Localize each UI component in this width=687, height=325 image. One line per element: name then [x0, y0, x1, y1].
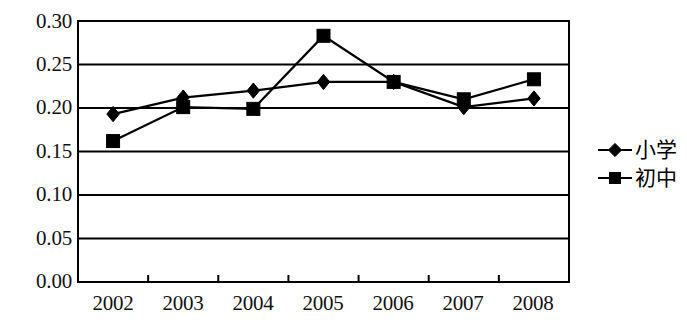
- data-point-diamond: [528, 91, 540, 106]
- line-chart: 0.30 0.25 0.20 0.15 0.10 0.05 0.00 2002 …: [0, 0, 687, 325]
- data-point-square: [387, 75, 400, 88]
- series-1: [107, 74, 540, 121]
- data-point-square: [317, 29, 330, 42]
- diamond-marker-icon: [598, 140, 632, 160]
- data-point-square: [457, 93, 470, 106]
- plot-area: [0, 0, 687, 325]
- legend-label: 小学: [632, 140, 677, 161]
- legend: 小学 初中: [598, 137, 687, 193]
- legend-label: 初中: [632, 168, 677, 189]
- x-axis-ticks: [148, 275, 499, 282]
- series-layer: [107, 29, 541, 147]
- data-point-square: [247, 102, 260, 115]
- data-point-square: [527, 73, 540, 86]
- legend-item-chuzhong[interactable]: 初中: [598, 165, 687, 191]
- legend-item-xiaoxue[interactable]: 小学: [598, 137, 687, 163]
- data-point-diamond: [247, 83, 259, 98]
- data-point-square: [107, 135, 120, 148]
- square-marker-icon: [598, 168, 632, 188]
- data-point-diamond: [317, 74, 329, 89]
- data-point-square: [177, 101, 190, 114]
